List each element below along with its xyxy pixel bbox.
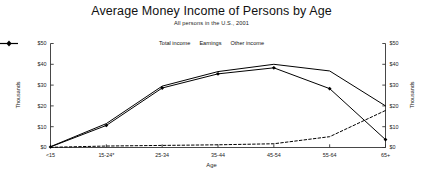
x-axis-tick-label: 65+ (366, 152, 406, 158)
series-line-other-income (51, 110, 386, 147)
x-axis-tick-label: <15 (31, 152, 71, 158)
x-axis-tick-label: 55-64 (310, 152, 350, 158)
y-axis-tick-label-left: $30 (23, 82, 47, 88)
y-axis-tick-label-right: $0 (390, 144, 414, 150)
y-axis-tick-label-left: $50 (23, 40, 47, 46)
y-axis-tick-label-left: $0 (23, 144, 47, 150)
series-line-earnings (51, 68, 386, 147)
y-axis-tick-label-right: $50 (390, 40, 414, 46)
x-axis-tick-label: 45-54 (254, 152, 294, 158)
y-axis-tick-label-right: $10 (390, 124, 414, 130)
x-axis-tick-label: 25-34 (142, 152, 182, 158)
y-axis-tick-label-left: $40 (23, 61, 47, 67)
y-axis-tick-label-right: $20 (390, 103, 414, 109)
y-axis-tick-label-left: $20 (23, 103, 47, 109)
y-axis-tick-label-left: $10 (23, 124, 47, 130)
y-axis-tick-label-right: $30 (390, 82, 414, 88)
income-by-age-chart: Average Money Income of Persons by Age A… (0, 0, 423, 178)
series-line-total-income (51, 64, 386, 146)
x-axis-tick-label: 15-24* (86, 152, 126, 158)
x-axis-tick-label: 35-44 (198, 152, 238, 158)
data-point-marker (272, 66, 276, 70)
y-axis-tick-label-right: $40 (390, 61, 414, 67)
data-point-marker (216, 72, 220, 76)
